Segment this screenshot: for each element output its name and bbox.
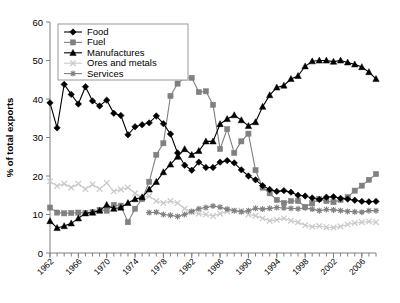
data-point-marker xyxy=(175,213,181,219)
data-point-marker xyxy=(167,131,173,137)
data-point-marker xyxy=(253,168,258,173)
y-tick-label: 30 xyxy=(32,132,43,143)
data-point-marker xyxy=(54,210,59,215)
data-point-marker xyxy=(217,121,223,127)
data-point-marker xyxy=(54,183,60,189)
data-point-marker xyxy=(90,182,96,188)
data-point-marker xyxy=(62,211,67,216)
y-tick-label: 0 xyxy=(38,248,43,259)
legend-label: Fuel xyxy=(87,36,105,47)
data-point-marker xyxy=(196,89,201,94)
data-point-marker xyxy=(97,186,103,192)
x-tick-label: 1966 xyxy=(63,256,84,277)
data-point-marker xyxy=(295,192,301,198)
data-point-marker xyxy=(139,122,145,128)
data-point-marker xyxy=(366,177,371,182)
y-tick-label: 60 xyxy=(32,17,43,28)
x-tick-label: 1970 xyxy=(92,256,113,277)
data-point-marker xyxy=(330,207,336,213)
data-point-marker xyxy=(132,206,137,211)
data-point-marker xyxy=(260,206,266,212)
x-tick-label: 1978 xyxy=(148,256,169,277)
data-point-marker xyxy=(345,208,351,214)
data-point-marker xyxy=(217,204,223,210)
data-point-marker xyxy=(359,183,364,188)
data-point-marker xyxy=(259,103,265,109)
data-point-marker xyxy=(281,187,287,193)
data-point-marker xyxy=(70,71,76,77)
data-point-marker xyxy=(373,198,379,204)
x-tick-label: 2002 xyxy=(318,256,339,277)
data-point-marker xyxy=(82,83,88,89)
data-point-marker xyxy=(316,208,322,214)
data-point-marker xyxy=(224,116,230,122)
data-point-marker xyxy=(104,180,110,186)
data-point-marker xyxy=(302,63,308,69)
data-point-marker xyxy=(167,212,173,218)
data-point-marker xyxy=(302,193,308,199)
data-point-marker xyxy=(253,205,259,211)
data-point-marker xyxy=(47,205,52,210)
x-tick-label: 1986 xyxy=(205,256,226,277)
data-point-marker xyxy=(252,119,258,125)
legend-label: Manufactures xyxy=(87,47,145,58)
data-point-marker xyxy=(104,208,109,213)
data-point-marker xyxy=(154,152,159,157)
series-fuel xyxy=(47,75,378,225)
data-point-marker xyxy=(231,112,237,118)
data-point-marker xyxy=(281,205,287,211)
x-tick-label: 1990 xyxy=(233,256,254,277)
data-point-marker xyxy=(232,150,237,155)
data-point-marker xyxy=(103,201,109,207)
data-point-marker xyxy=(281,200,286,205)
data-point-marker xyxy=(160,212,166,218)
data-point-marker xyxy=(274,197,279,202)
data-point-marker xyxy=(203,89,208,94)
data-point-marker xyxy=(189,75,194,80)
data-point-marker xyxy=(231,208,237,214)
data-point-marker xyxy=(182,212,188,218)
data-point-marker xyxy=(225,126,230,131)
data-point-marker xyxy=(68,185,74,191)
data-point-marker xyxy=(274,188,280,194)
x-tick-label: 1998 xyxy=(290,256,311,277)
data-point-marker xyxy=(373,208,379,214)
data-point-marker xyxy=(373,171,378,176)
y-tick-label: 40 xyxy=(32,94,43,105)
data-point-marker xyxy=(54,125,60,131)
y-tick-label: 20 xyxy=(32,171,43,182)
data-point-marker xyxy=(210,102,215,107)
data-point-marker xyxy=(295,206,301,212)
data-point-marker xyxy=(352,209,358,215)
data-point-marker xyxy=(203,205,209,211)
data-point-marker xyxy=(181,146,187,152)
y-tick-label: 50 xyxy=(32,55,43,66)
data-point-marker xyxy=(274,205,280,211)
data-point-marker xyxy=(239,139,244,144)
data-point-marker xyxy=(288,205,294,211)
data-point-marker xyxy=(125,200,131,206)
data-point-marker xyxy=(246,131,251,136)
data-point-marker xyxy=(69,210,74,215)
data-point-marker xyxy=(118,112,124,118)
data-point-marker xyxy=(182,206,188,212)
data-point-marker xyxy=(337,57,343,63)
data-point-marker xyxy=(47,100,53,106)
data-point-marker xyxy=(217,211,223,217)
data-point-marker xyxy=(196,206,202,212)
y-axis-title: % of total exports xyxy=(4,98,15,178)
data-point-marker xyxy=(153,209,159,215)
data-point-marker xyxy=(210,203,216,209)
data-point-marker xyxy=(83,186,89,192)
legend-label: Ores and metals xyxy=(87,57,157,68)
data-point-marker xyxy=(161,141,166,146)
data-point-marker xyxy=(366,208,372,214)
data-point-marker xyxy=(267,205,273,211)
x-tick-label: 1982 xyxy=(177,256,198,277)
data-point-marker xyxy=(352,188,357,193)
y-tick-label: 10 xyxy=(32,209,43,220)
data-point-marker xyxy=(147,179,152,184)
data-point-marker xyxy=(47,218,53,224)
exports-composition-line-chart: 0102030405060% of total exports196219661… xyxy=(0,0,400,303)
data-point-marker xyxy=(323,206,329,212)
